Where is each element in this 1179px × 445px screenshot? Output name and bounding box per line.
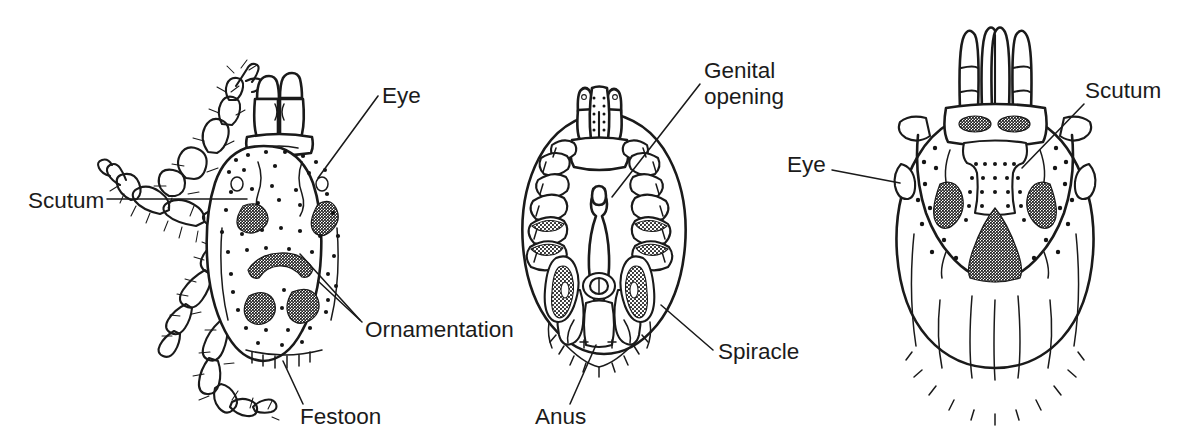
scapula-right (1060, 117, 1091, 141)
label-festoon: Festoon (300, 404, 381, 429)
genital-opening-marker (592, 186, 606, 205)
ventral-plate-center (584, 301, 614, 348)
label-ornamentation: Ornamentation (365, 317, 514, 342)
figure-canvas: Eye Scutum Ornamentation Festoon Genital… (0, 0, 1179, 445)
label-spiracle: Spiracle (718, 339, 799, 364)
label-genital: Genital (704, 58, 775, 83)
ornamentation-patch-lower-left (244, 293, 275, 325)
label-scutum-right: Scutum (1085, 78, 1161, 103)
label-scutum-left: Scutum (28, 188, 104, 213)
eye-right-dot (316, 177, 328, 191)
label-eye-right: Eye (787, 152, 826, 177)
label-eye-left: Eye (382, 83, 421, 108)
label-anus: Anus (535, 404, 586, 429)
scapula-left (899, 117, 930, 141)
tick-anatomy-figure: Eye Scutum Ornamentation Festoon Genital… (0, 0, 1179, 445)
capitulum-middle (570, 87, 628, 171)
eye-left-dot (231, 177, 243, 191)
label-opening: opening (704, 84, 784, 109)
porose-area-left (959, 116, 991, 132)
porose-area-right (998, 116, 1030, 132)
idiosoma-left (207, 146, 322, 361)
